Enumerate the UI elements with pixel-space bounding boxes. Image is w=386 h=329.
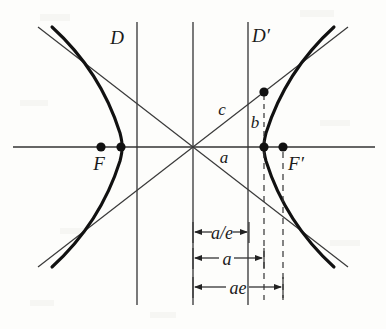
vertex-right-point bbox=[259, 142, 268, 151]
focus-left-label: F bbox=[92, 153, 105, 174]
directrix-right-label: D′ bbox=[251, 25, 271, 46]
vertex-left-point bbox=[116, 142, 125, 151]
dim-ae-label: ae bbox=[230, 278, 247, 298]
focus-right-point bbox=[278, 142, 287, 151]
hyperbola-figure-container: D D′ F F′ c b a a/e a bbox=[0, 0, 386, 329]
asymptote-point bbox=[259, 87, 268, 96]
focus-right-label: F′ bbox=[287, 153, 305, 174]
focus-left-point bbox=[96, 142, 105, 151]
segment-a-label: a bbox=[220, 148, 229, 167]
hyperbola-diagram: D D′ F F′ c b a a/e a bbox=[0, 0, 386, 329]
directrix-left-label: D bbox=[109, 27, 124, 48]
segment-b-label: b bbox=[251, 113, 260, 132]
dim-a-label: a bbox=[223, 249, 232, 269]
segment-c-label: c bbox=[218, 100, 226, 119]
dim-a-over-e-label: a/e bbox=[211, 223, 233, 243]
